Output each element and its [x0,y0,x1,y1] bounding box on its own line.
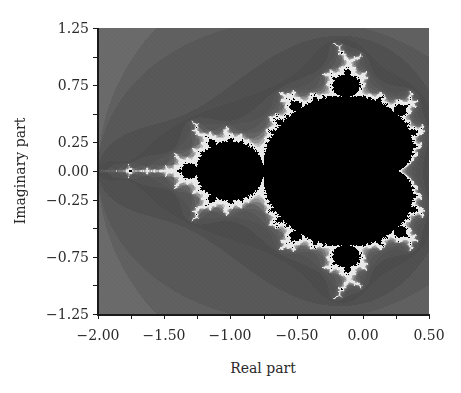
x-tick-mark [396,314,397,319]
x-tick-mark [197,314,198,319]
y-tick-label: −1.25 [46,307,89,321]
y-tick-label: 0.00 [58,164,89,178]
x-tick-label: −0.50 [276,328,319,342]
y-axis-title: Imaginary part [12,118,28,225]
y-tick-mark [93,85,98,86]
x-tick-mark [131,314,132,319]
y-tick-label: 0.75 [58,78,89,92]
y-tick-label: 0.25 [58,135,89,149]
y-tick-mark [93,285,98,286]
x-tick-mark [429,314,430,319]
x-tick-label: −1.50 [143,328,186,342]
y-tick-mark [93,200,98,201]
y-tick-mark [93,257,98,258]
x-tick-label: −1.00 [209,328,252,342]
y-tick-mark [93,142,98,143]
x-tick-mark [363,314,364,319]
x-tick-mark [297,314,298,319]
y-tick-mark [93,28,98,29]
y-tick-label: −0.75 [46,250,89,264]
x-tick-label: 0.50 [413,328,444,342]
x-tick-mark [164,314,165,319]
x-tick-mark [230,314,231,319]
y-tick-label: −0.25 [46,193,89,207]
x-tick-label: −2.00 [77,328,120,342]
x-axis-title: Real part [230,360,296,376]
x-tick-mark [98,314,99,319]
y-tick-mark [93,57,98,58]
plot-area [98,28,429,314]
y-tick-mark [93,171,98,172]
mandelbrot-heatmap [98,28,429,314]
x-tick-label: 0.00 [347,328,378,342]
x-tick-mark [330,314,331,319]
y-tick-label: 1.25 [58,21,89,35]
mandelbrot-figure: 1.250.750.250.00−0.25−0.75−1.25 −2.00−1.… [0,0,461,393]
x-tick-mark [264,314,265,319]
y-tick-mark [93,114,98,115]
y-tick-mark [93,228,98,229]
